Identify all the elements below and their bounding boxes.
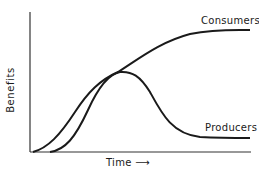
- consumers-label: Consumers: [201, 16, 259, 26]
- producers-curve: [50, 72, 250, 152]
- chart-canvas: [0, 0, 259, 174]
- consumers-curve: [33, 30, 250, 152]
- y-axis-label: Benefits: [6, 67, 16, 113]
- x-axis-label: Time ⟶: [106, 158, 150, 168]
- producers-label: Producers: [205, 123, 257, 133]
